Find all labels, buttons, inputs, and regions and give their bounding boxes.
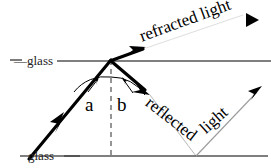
glass-label-bottom: glass (28, 149, 54, 162)
refracted-ray (110, 49, 143, 61)
incident-ray (29, 60, 111, 159)
diagram-canvas (0, 0, 271, 168)
angle-label-a: a (85, 95, 93, 114)
angle-label-b: b (117, 95, 127, 114)
optics-diagram: —glass glass a b refracted light reflect… (0, 0, 271, 168)
glass-label-top: —glass (14, 54, 53, 67)
refracted-light-tip-arrow (246, 13, 259, 27)
angle-arc-b-arrowhead (122, 77, 127, 86)
exit-ray-arrowhead (248, 86, 262, 100)
